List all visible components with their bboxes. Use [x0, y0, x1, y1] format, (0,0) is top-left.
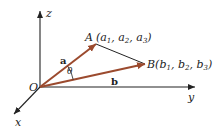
- point-a-label: A(a1, a2, a3): [84, 31, 152, 45]
- x-axis-label: x: [15, 116, 22, 129]
- z-axis-label: z: [45, 7, 52, 20]
- segment-ab: [96, 44, 145, 64]
- vector-a-label: a: [60, 55, 67, 66]
- vector-diagram: z y x O θ a b A(a1, a2, a3) B(b1, b2, b3…: [0, 0, 223, 131]
- y-axis-label: y: [187, 91, 195, 104]
- angle-label: θ: [67, 66, 73, 76]
- origin-label: O: [29, 81, 38, 94]
- vector-b-label: b: [111, 76, 118, 87]
- point-b-label: B(b1, b2, b3): [146, 58, 212, 72]
